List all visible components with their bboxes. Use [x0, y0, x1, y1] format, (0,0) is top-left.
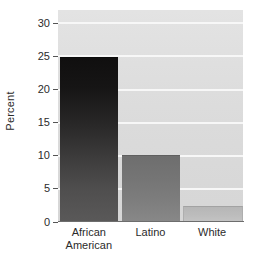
- y-axis-tick-label: 30: [38, 18, 53, 29]
- y-axis-tick-label: 20: [38, 84, 53, 95]
- y-axis-tick-label: 15: [38, 117, 53, 128]
- bar-african-american[interactable]: [60, 57, 118, 222]
- x-axis-tick-label-line2: American: [58, 239, 120, 252]
- bar-white[interactable]: [183, 206, 243, 222]
- x-axis-tick-label-line1: White: [198, 226, 226, 238]
- x-axis-tick-label: AfricanAmerican: [58, 226, 120, 252]
- bar-chart-figure: Percent 051015202530 AfricanAmericanLati…: [0, 0, 258, 257]
- bars-group: [58, 10, 243, 222]
- y-axis-tick-label: 10: [38, 150, 53, 161]
- y-axis-tick-label: 25: [38, 51, 53, 62]
- x-axis-tick-label-line1: African: [72, 226, 106, 238]
- x-axis-tick-label: Latino: [120, 226, 182, 239]
- y-axis-tick-label: 5: [44, 183, 53, 194]
- y-axis: 051015202530: [20, 0, 58, 257]
- y-axis-title: Percent: [0, 0, 20, 222]
- x-axis-tick-label-line1: Latino: [135, 226, 165, 238]
- x-axis-tick-label: White: [181, 226, 243, 239]
- bar-latino[interactable]: [122, 155, 180, 222]
- y-axis-tick-label: 0: [44, 217, 53, 228]
- x-axis: AfricanAmericanLatinoWhite: [58, 226, 243, 257]
- x-axis-baseline: [58, 221, 244, 222]
- plot-area: [58, 10, 243, 222]
- y-axis-title-label: Percent: [4, 91, 16, 130]
